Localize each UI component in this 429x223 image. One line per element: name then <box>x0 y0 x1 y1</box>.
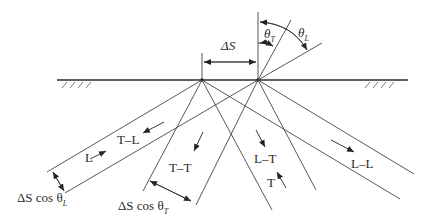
label-dscos-theta-l: ΔS cos θL <box>17 191 67 208</box>
ray-b-l-left <box>65 80 258 193</box>
ray-a-l-right <box>202 80 400 199</box>
diagram-canvas <box>0 0 429 223</box>
arrow-t <box>277 172 286 188</box>
ray-a-t-right <box>202 80 272 210</box>
dim-l-arrow-b <box>53 172 64 191</box>
ray-b-l-right <box>258 80 414 174</box>
arrow-l-l <box>331 140 354 152</box>
label-l-t: L–T <box>254 152 276 165</box>
ray-b-t-left <box>196 80 258 205</box>
arrow-t-l <box>143 122 164 133</box>
label-l-l: L–L <box>351 157 373 170</box>
label-t-l: T–L <box>117 133 139 146</box>
label-delta-s: ΔS <box>221 39 235 52</box>
label-theta-t: θT <box>264 27 275 44</box>
ray-b-t-right <box>258 80 316 190</box>
arrow-t-t <box>194 132 203 151</box>
label-t-t: T–T <box>169 161 191 174</box>
label-dscos-theta-t: ΔS cos θT <box>118 199 168 216</box>
ground-hatch-right <box>365 82 394 88</box>
arrow-l-t <box>256 130 265 147</box>
label-theta-l: θL <box>298 26 309 43</box>
ground-hatch-left <box>62 82 91 88</box>
label-t: T <box>267 176 275 189</box>
ray-theta-l <box>258 43 322 80</box>
label-l: L <box>85 151 93 164</box>
